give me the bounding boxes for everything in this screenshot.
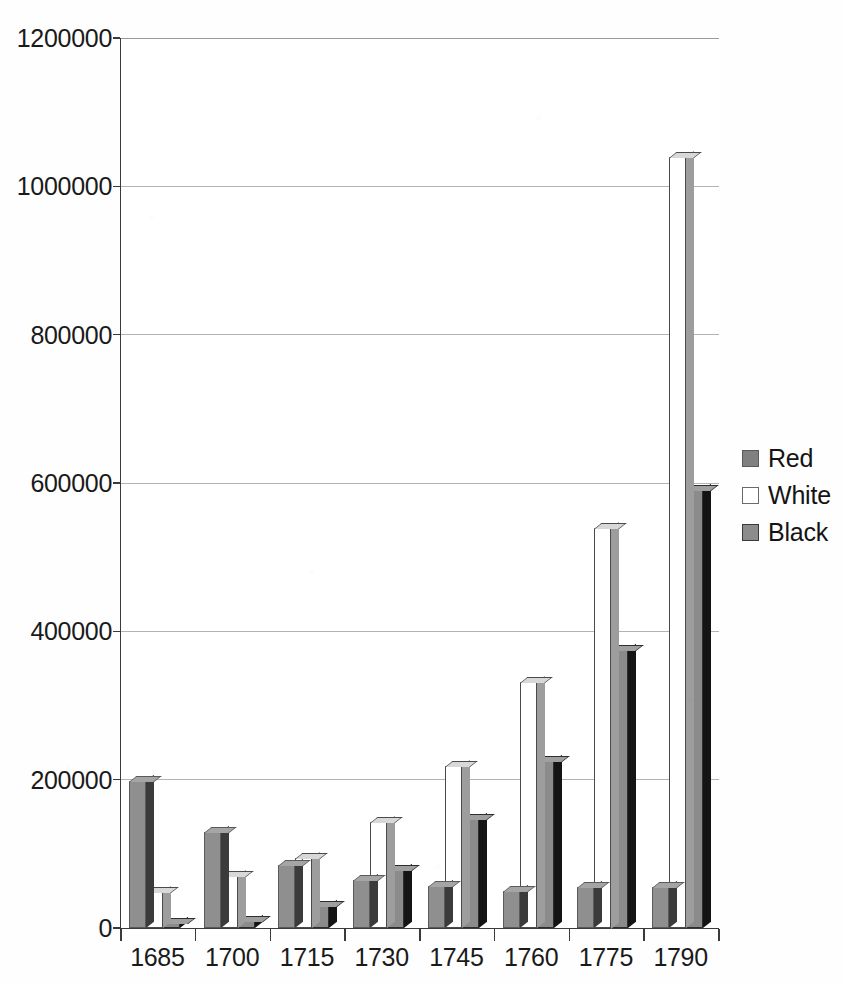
chart-legend: RedWhiteBlack (742, 440, 831, 551)
x-axis-tick-label-1760: 1760 (504, 943, 558, 972)
x-axis-tick-label-1685: 1685 (130, 943, 184, 972)
x-axis-tick-mark (718, 929, 720, 941)
bar-top-face (445, 761, 478, 767)
x-axis-tick-label-1730: 1730 (355, 943, 409, 972)
legend-item-black[interactable]: Black (742, 514, 831, 551)
bar-face (204, 832, 221, 928)
x-axis-tick-mark (195, 929, 197, 941)
y-axis-tick-label: 800000 (30, 320, 112, 349)
bar-side-face (146, 775, 154, 928)
x-axis-tick-label-1715: 1715 (280, 943, 334, 972)
bar-top-face (295, 853, 328, 859)
legend-label: White (768, 481, 831, 510)
bar-group-1760 (495, 38, 570, 928)
bar-side-face (221, 825, 229, 928)
y-axis-tick-label: 0 (98, 914, 112, 943)
bar-top-face (129, 776, 162, 782)
y-axis-tick-label: 600000 (30, 469, 112, 498)
bar-face (577, 887, 594, 928)
bar-red-1775 (577, 887, 594, 928)
y-axis-tick-mark (113, 482, 120, 484)
y-axis-tick-mark (113, 779, 120, 781)
x-axis-tick-mark (643, 929, 645, 941)
bar-side-face (669, 881, 677, 928)
bar-side-face (312, 851, 320, 928)
y-axis-tick-mark (113, 37, 120, 39)
bar-group-1790 (644, 38, 719, 928)
bar-side-face (686, 150, 694, 928)
x-axis-tick-label-1775: 1775 (579, 943, 633, 972)
x-axis-tick-mark (494, 929, 496, 941)
bar-group-1730 (345, 38, 420, 928)
y-axis-tick-label: 200000 (30, 765, 112, 794)
bar-face (503, 891, 520, 928)
chart-page: 020000040000060000080000010000001200000 … (0, 0, 842, 985)
legend-item-white[interactable]: White (742, 477, 831, 514)
bar-top-face (594, 523, 627, 529)
y-axis-tick-mark (113, 334, 120, 336)
legend-label: Black (768, 518, 828, 547)
x-axis-tick-mark (419, 929, 421, 941)
legend-item-red[interactable]: Red (742, 440, 831, 477)
bar-side-face (554, 755, 562, 928)
bar-group-1775 (570, 38, 645, 928)
bar-side-face (594, 881, 602, 928)
bar-side-face (611, 521, 619, 928)
bar-group-1745 (420, 38, 495, 928)
bar-white-1790 (669, 157, 686, 928)
bar-group-1715 (271, 38, 346, 928)
bar-red-1730 (353, 880, 370, 928)
plot-area (120, 38, 719, 929)
x-axis-tick-mark (270, 929, 272, 941)
x-axis-tick-mark (344, 929, 346, 941)
bar-group-1700 (196, 38, 271, 928)
bar-face (278, 865, 295, 928)
y-axis-tick-mark (113, 927, 120, 929)
y-axis-tick-label: 1000000 (17, 172, 112, 201)
swatch-black-icon (742, 524, 759, 541)
x-axis-tick-label-1700: 1700 (205, 943, 259, 972)
bar-side-face (537, 676, 545, 928)
y-axis-tick-label: 1200000 (17, 24, 112, 53)
bar-red-1790 (652, 887, 669, 928)
x-axis: 16851700171517301745176017751790 (120, 929, 720, 985)
legend-label: Red (768, 444, 813, 473)
bar-side-face (238, 870, 246, 928)
swatch-white-icon (742, 487, 759, 504)
bar-top-face (370, 817, 403, 823)
x-axis-tick-mark (120, 929, 122, 941)
bar-top-face (520, 677, 553, 683)
bar-side-face (404, 864, 412, 928)
bar-side-face (387, 816, 395, 928)
bar-white-1775 (594, 528, 611, 929)
bar-side-face (479, 813, 487, 928)
x-axis-tick-label-1745: 1745 (429, 943, 483, 972)
y-axis: 020000040000060000080000010000001200000 (0, 0, 112, 985)
y-axis-tick-mark (113, 186, 120, 188)
bar-face (428, 886, 445, 928)
bar-face (129, 781, 146, 928)
bar-face (652, 887, 669, 928)
bar-red-1745 (428, 886, 445, 928)
bar-red-1760 (503, 891, 520, 928)
y-axis-tick-mark (113, 631, 120, 633)
bar-top-face (204, 827, 237, 833)
bar-face (353, 880, 370, 928)
bar-face (669, 157, 686, 928)
bar-side-face (370, 874, 378, 928)
x-axis-tick-label-1790: 1790 (654, 943, 708, 972)
bar-top-face (669, 152, 702, 158)
x-axis-tick-mark (569, 929, 571, 941)
swatch-red-icon (742, 450, 759, 467)
bar-side-face (462, 760, 470, 928)
bar-group-1685 (121, 38, 196, 928)
bar-red-1685 (129, 781, 146, 928)
bar-side-face (703, 484, 711, 928)
bar-red-1715 (278, 865, 295, 928)
bar-face (594, 528, 611, 929)
bar-side-face (295, 859, 303, 928)
y-axis-tick-label: 400000 (30, 617, 112, 646)
bar-red-1700 (204, 832, 221, 928)
bar-side-face (628, 644, 636, 928)
